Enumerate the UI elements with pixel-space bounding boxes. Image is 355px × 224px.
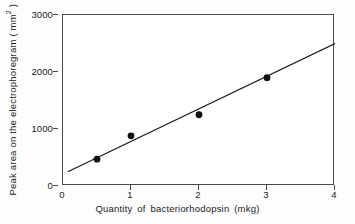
fit-line (68, 44, 335, 172)
x-tick-label: 2 (195, 189, 200, 200)
x-tick-label: 4 (331, 189, 336, 200)
plot-svg (63, 15, 335, 186)
figure-container: Peak area on the electrophoregram ( mm2 … (0, 0, 355, 224)
data-point (264, 74, 271, 81)
x-axis-title: Quantity of bacteriorhodopsin (mkg) (0, 203, 355, 214)
data-point (196, 111, 203, 118)
plot-area (62, 14, 334, 185)
data-point (94, 156, 101, 163)
regression-line (68, 44, 335, 172)
data-point (128, 132, 135, 139)
x-tick-label: 3 (263, 189, 268, 200)
x-tick-label: 0 (59, 189, 64, 200)
x-tick-label: 1 (127, 189, 132, 200)
